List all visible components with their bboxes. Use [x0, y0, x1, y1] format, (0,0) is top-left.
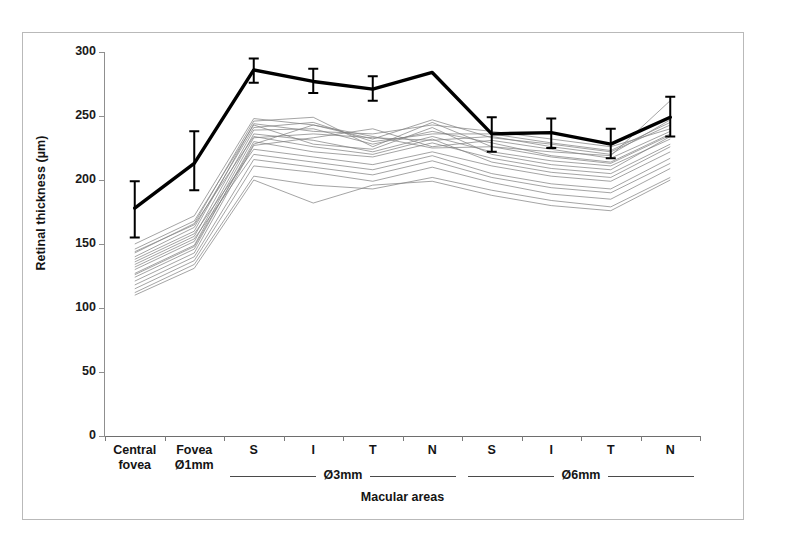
x-axis-category-label: S	[462, 443, 522, 458]
subject-line	[135, 136, 671, 251]
x-axis-tick	[224, 436, 225, 441]
x-axis-category-label: S	[224, 443, 284, 458]
y-axis-tick	[99, 244, 105, 245]
plot-area	[105, 52, 700, 436]
subject-line	[135, 160, 671, 285]
y-axis-tick	[99, 372, 105, 373]
x-axis-tick	[165, 436, 166, 441]
subject-line	[135, 120, 671, 274]
category-line-1: Fovea	[176, 443, 212, 457]
category-line-1: S	[488, 443, 496, 457]
x-axis-tick	[641, 436, 642, 441]
y-axis-tick-label: 250	[56, 109, 96, 121]
x-axis-title: Macular areas	[105, 490, 700, 504]
group-bracket-line	[468, 476, 554, 477]
y-axis-tick	[99, 116, 105, 117]
x-axis-tick	[700, 436, 701, 441]
y-axis-tick-label: 0	[56, 429, 96, 441]
category-line-1: Central	[113, 443, 156, 457]
group-bracket-line	[608, 476, 694, 477]
x-axis-category-label: T	[343, 443, 403, 458]
x-axis-tick	[403, 436, 404, 441]
figure-container: Retinal thickness (µm) 30025020015010050…	[0, 0, 785, 546]
x-axis-category-label: I	[284, 443, 344, 458]
y-axis-title: Retinal thickness (µm)	[34, 88, 48, 318]
category-line-1: I	[550, 443, 553, 457]
category-line-1: T	[369, 443, 377, 457]
x-axis-tick	[581, 436, 582, 441]
group-label: Ø6mm	[554, 468, 608, 482]
y-axis-tick-labels: 300250200150100500	[48, 0, 96, 546]
x-axis-category-label: I	[522, 443, 582, 458]
x-axis-category-label: Centralfovea	[105, 443, 165, 473]
category-line-1: N	[428, 443, 437, 457]
x-axis-tick	[284, 436, 285, 441]
chart-lines-svg	[105, 52, 700, 436]
category-line-1: N	[666, 443, 675, 457]
x-axis-category-label: N	[641, 443, 701, 458]
x-axis-category-label: FoveaØ1mm	[165, 443, 225, 473]
subject-line	[135, 166, 671, 289]
category-line-1: S	[250, 443, 258, 457]
subject-line	[135, 149, 671, 262]
y-axis-tick-label: 200	[56, 173, 96, 185]
category-line-2: fovea	[105, 458, 165, 473]
y-axis-tick-label: 50	[56, 365, 96, 377]
y-axis-tick-label: 150	[56, 237, 96, 249]
subject-line	[135, 101, 671, 253]
x-axis-tick	[522, 436, 523, 441]
x-axis-tick	[343, 436, 344, 441]
x-axis-tick	[462, 436, 463, 441]
y-axis-tick	[99, 180, 105, 181]
category-line-1: T	[607, 443, 615, 457]
y-axis-tick-label: 100	[56, 301, 96, 313]
x-axis-category-label: T	[581, 443, 641, 458]
group-bracket-line	[230, 476, 316, 477]
x-axis-category-label: N	[403, 443, 463, 458]
group-label: Ø3mm	[316, 468, 370, 482]
group-bracket-line	[370, 476, 456, 477]
x-axis-tick	[105, 436, 106, 441]
y-axis-tick	[99, 52, 105, 53]
y-axis-tick-label: 300	[56, 45, 96, 57]
category-line-1: I	[312, 443, 315, 457]
y-axis-tick	[99, 308, 105, 309]
category-line-2: Ø1mm	[165, 458, 225, 473]
